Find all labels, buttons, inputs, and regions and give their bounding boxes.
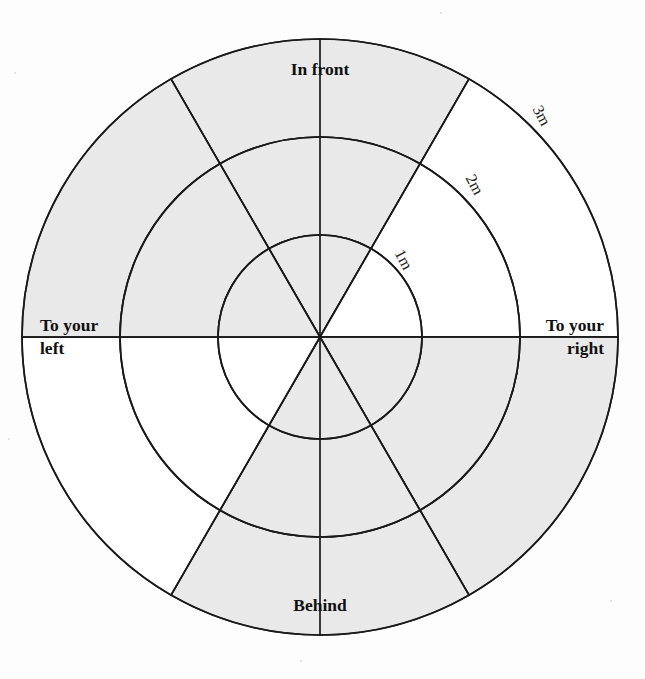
proximity-wheel-svg: In front Behind To your left To your rig…: [0, 0, 645, 679]
label-to-your-left-line1: To your: [40, 315, 98, 335]
label-to-your-right-line2: right: [567, 338, 604, 358]
scan-speck: [8, 438, 10, 440]
scan-speck: [610, 600, 612, 602]
label-to-your-right-line1: To your: [546, 315, 604, 335]
label-to-your-left-line2: left: [40, 338, 64, 358]
scan-speck: [440, 12, 442, 14]
label-ring-3m: 3m: [530, 102, 555, 129]
scan-speck: [300, 660, 302, 662]
label-in-front: In front: [291, 59, 350, 79]
scan-speck: [14, 72, 16, 74]
diagram-canvas: In front Behind To your left To your rig…: [0, 0, 645, 679]
label-behind: Behind: [293, 595, 347, 615]
